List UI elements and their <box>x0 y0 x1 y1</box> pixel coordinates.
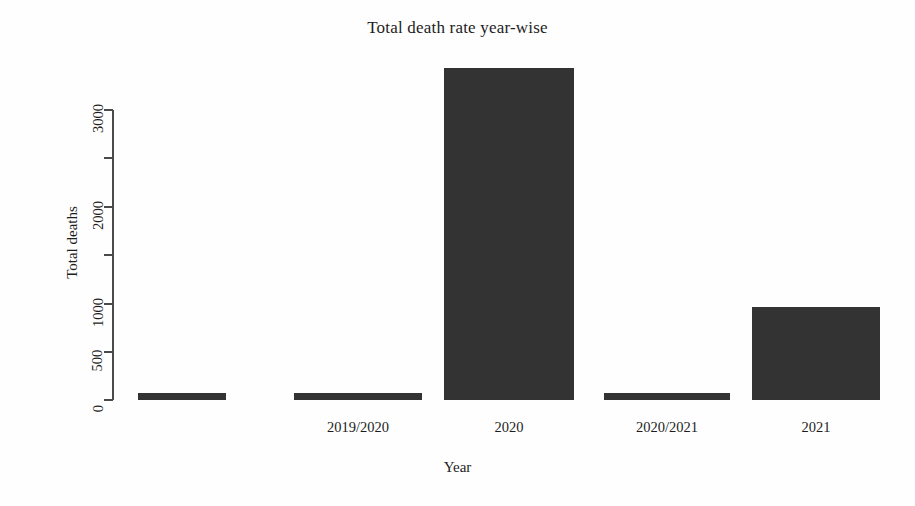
x-axis-tick-label: 2019/2020 <box>327 419 389 436</box>
y-axis-tick <box>104 254 113 256</box>
y-axis-tick-label: 2000 <box>90 201 107 230</box>
bar-2 <box>294 393 422 400</box>
x-axis-tick-label: 2020 <box>495 419 524 436</box>
y-axis-tick <box>104 157 113 159</box>
y-axis-tick-label: 3000 <box>90 104 107 133</box>
bar-3 <box>444 68 574 400</box>
y-axis-tick-label: 500 <box>90 350 107 372</box>
bar-4 <box>604 393 730 400</box>
y-axis-tick-label: 1000 <box>90 298 107 327</box>
x-axis-tick-label: 2021 <box>802 419 831 436</box>
bar-1 <box>138 393 226 400</box>
plot-area: 3000200010005000 Total deaths 2019/20202… <box>0 0 915 506</box>
chart-page: Total death rate year-wise 3000200010005… <box>0 0 915 506</box>
x-axis-tick-label: 2020/2021 <box>636 419 698 436</box>
y-axis-tick <box>104 399 113 401</box>
y-axis-tick-label: 0 <box>90 405 107 412</box>
x-axis-title: Year <box>0 459 915 476</box>
y-axis-title: Total deaths <box>64 206 81 279</box>
bar-5 <box>752 307 880 400</box>
